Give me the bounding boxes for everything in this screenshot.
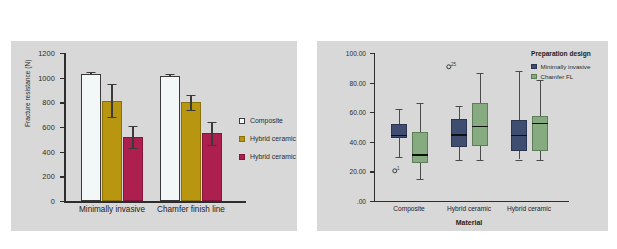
box-median-c1-blue (391, 135, 407, 136)
bar-ytick-label-0: 0 (51, 197, 55, 206)
box-plot-x-axis-label: Material (456, 219, 482, 226)
legend-item-minimally-invasive[interactable]: Minimally invasive (531, 63, 591, 70)
bar-chart-y-axis-label: Fracture resistance (N) (24, 60, 31, 127)
box-ytick-60: 60.00 (370, 112, 375, 113)
box-ytick-20: 20.00 (370, 171, 375, 172)
outlier-label-1: 1 (397, 166, 400, 171)
legend-swatch-composite-icon (239, 118, 245, 124)
bar-ytick-600: 600 (60, 127, 65, 128)
box-ytick-label-60: 60.00 (349, 109, 366, 116)
outlier-label-25: 25 (451, 62, 456, 67)
bar-xtick-label-minimally-invasive: Minimally invasive (79, 205, 145, 214)
box-ytick-40: 40.00 (370, 142, 375, 143)
box-plot-x-axis (374, 201, 569, 202)
box-whisker-cap-bottom-c3-blue (516, 160, 523, 161)
bar-xtick-label-chamfer-finish-line: Chamfer finish line (157, 205, 225, 214)
bar-ytick-label-400: 400 (42, 147, 55, 156)
errorcap-bottom-g1-hybrid-crimson (129, 148, 138, 149)
box-median-c3-green (532, 123, 548, 124)
bar-ytick-200: 200 (60, 176, 65, 177)
bar-ytick-label-200: 200 (42, 172, 55, 181)
legend-label-minimally-invasive: Minimally invasive (541, 63, 591, 70)
errorcap-top-g2-hybrid-crimson (208, 122, 217, 123)
legend-swatch-chamfer-fl-icon (531, 74, 537, 80)
box-plot-legend: Preparation design Minimally invasive Ch… (531, 50, 591, 83)
box-ytick-label-40: 40.00 (349, 138, 366, 145)
bar-ytick-1200: 1200 (60, 53, 65, 54)
box-plot-panel: .00 20.00 40.00 60.00 80.00 100.00 (317, 41, 608, 231)
errorcap-top-g1-hybrid-crimson (129, 126, 138, 127)
figure-root: Fracture resistance (N) 0 200 400 600 80… (0, 0, 617, 249)
errorbar-g2-hybrid-gold (190, 95, 191, 110)
legend-swatch-hybrid-crimson-icon (239, 154, 245, 160)
box-plot-plot-area: .00 20.00 40.00 60.00 80.00 100.00 (374, 53, 526, 201)
errorcap-top-g2-hybrid-gold (187, 95, 196, 96)
box-whisker-cap-bottom-c2-green (477, 160, 484, 161)
bar-chart-x-axis (64, 201, 246, 203)
bar-g2-composite[interactable] (160, 76, 180, 201)
box-c2-minimally-invasive[interactable] (451, 119, 467, 147)
bar-g2-hybrid-gold[interactable] (181, 102, 201, 201)
bar-chart-legend: Composite Hybrid ceramic Hybrid ceramic (239, 117, 296, 171)
legend-label-hybrid-ceramic-gold: Hybrid ceramic (250, 135, 296, 142)
box-median-c3-blue (511, 135, 527, 136)
legend-item-composite[interactable]: Composite (239, 117, 296, 124)
bar-ytick-0: 0 (60, 201, 65, 202)
box-plot-y-axis (374, 53, 375, 201)
legend-label-chamfer-fl: Chamfer FL (541, 73, 574, 80)
box-ytick-label-80: 80.00 (349, 79, 366, 86)
bar-ytick-label-600: 600 (42, 123, 55, 132)
box-median-c1-green (412, 154, 428, 155)
legend-item-hybrid-ceramic-gold[interactable]: Hybrid ceramic (239, 135, 296, 142)
bar-ytick-1000: 1000 (60, 78, 65, 79)
bar-ytick-label-800: 800 (42, 98, 55, 107)
box-whisker-cap-bottom-c2-blue (456, 160, 463, 161)
legend-item-hybrid-ceramic-crimson[interactable]: Hybrid ceramic (239, 153, 296, 160)
box-xtick-label-hybrid-ceramic-1: Hybrid ceramic (447, 205, 491, 212)
box-xtick-label-hybrid-ceramic-2: Hybrid ceramic (507, 205, 551, 212)
box-ytick-0: .00 (370, 201, 375, 202)
bar-ytick-label-1000: 1000 (38, 73, 55, 82)
box-plot-legend-title: Preparation design (531, 50, 591, 57)
errorcap-bottom-g2-hybrid-crimson (208, 145, 217, 146)
legend-item-chamfer-fl[interactable]: Chamfer FL (531, 73, 591, 80)
errorbar-g1-hybrid-gold (111, 84, 112, 117)
box-whisker-cap-bottom-c1-blue (396, 157, 403, 158)
box-ytick-label-0: .00 (357, 198, 366, 205)
box-c1-chamfer-fl[interactable] (412, 132, 428, 163)
legend-label-hybrid-ceramic-crimson: Hybrid ceramic (250, 153, 296, 160)
errorcap-bottom-g2-hybrid-gold (187, 110, 196, 111)
bar-g1-composite[interactable] (81, 74, 101, 201)
box-whisker-cap-bottom-c3-green (537, 160, 544, 161)
bar-ytick-label-1200: 1200 (38, 49, 55, 58)
box-ytick-100: 100.00 (370, 53, 375, 54)
box-whisker-cap-top-c3-blue (516, 71, 523, 72)
box-whisker-cap-top-c2-green (477, 73, 484, 74)
box-whisker-cap-top-c2-blue (456, 106, 463, 107)
errorbar-g2-hybrid-crimson (211, 122, 212, 145)
box-median-c2-blue (451, 134, 467, 135)
bar-chart-plot-area: 0 200 400 600 800 1000 1200 (64, 53, 240, 201)
box-ytick-80: 80.00 (370, 83, 375, 84)
box-whisker-cap-bottom-c1-green (417, 179, 424, 180)
box-whisker-cap-top-c1-blue (396, 109, 403, 110)
box-xtick-label-composite: Composite (393, 205, 425, 212)
legend-swatch-hybrid-gold-icon (239, 136, 245, 142)
errorcap-top-g2-composite (166, 74, 175, 75)
legend-label-composite: Composite (250, 117, 283, 124)
box-ytick-label-20: 20.00 (349, 168, 366, 175)
errorcap-top-g1-hybrid-gold (108, 84, 117, 85)
bar-ytick-800: 800 (60, 102, 65, 103)
errorbar-g1-hybrid-crimson (132, 126, 133, 148)
errorcap-top-g1-composite (87, 72, 96, 73)
legend-swatch-minimally-invasive-icon (531, 64, 537, 70)
box-c3-chamfer-fl[interactable] (532, 116, 548, 151)
bar-chart-panel: Fracture resistance (N) 0 200 400 600 80… (11, 41, 297, 231)
box-median-c2-green (472, 126, 488, 127)
bar-ytick-400: 400 (60, 152, 65, 153)
box-ytick-label-100: 100.00 (346, 50, 366, 57)
box-whisker-cap-top-c1-green (417, 103, 424, 104)
errorcap-bottom-g1-hybrid-gold (108, 117, 117, 118)
